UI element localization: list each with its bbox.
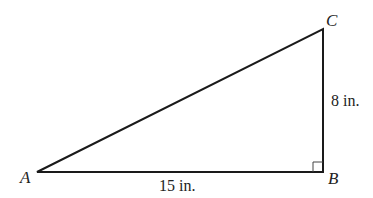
side-label-ab: 15 in. (159, 177, 195, 194)
vertex-label-c: C (326, 11, 338, 30)
vertex-label-b: B (328, 169, 339, 188)
triangle-diagram: A B C 15 in. 8 in. (0, 0, 373, 198)
diagram-canvas: A B C 15 in. 8 in. (0, 0, 373, 198)
right-angle-marker (313, 162, 323, 172)
vertex-label-a: A (19, 168, 31, 187)
triangle-abc (37, 29, 323, 172)
side-label-bc: 8 in. (331, 92, 359, 109)
